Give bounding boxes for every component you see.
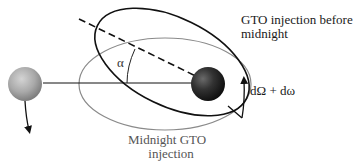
- midnight-label-line2: injection: [128, 147, 206, 161]
- before-midnight-label-line2: midnight: [241, 27, 353, 41]
- midnight-orbit: [79, 38, 251, 130]
- midnight-label-line1: Midnight GTO: [128, 132, 206, 147]
- moon-arrow-icon: [25, 101, 29, 130]
- moon-sphere: [8, 67, 42, 101]
- before-midnight-label: GTO injection before midnight: [241, 13, 353, 41]
- alpha-label: α: [117, 56, 124, 70]
- earth-sphere: [191, 67, 225, 101]
- angle-arc: [127, 49, 135, 83]
- before-midnight-label-line1: GTO injection before: [241, 12, 353, 27]
- rotation-label: dΩ + dω: [250, 84, 295, 98]
- midnight-label: Midnight GTO injection: [128, 133, 206, 161]
